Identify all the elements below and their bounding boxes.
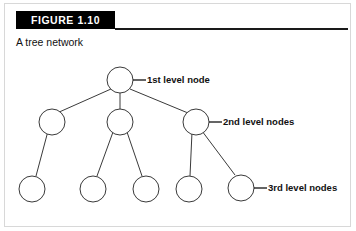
tree-network-diagram: 1st level node 2nd level nodes 3rd level… — [0, 0, 356, 231]
tree-nodes-level2 — [39, 109, 209, 135]
annotation-level-1: 1st level node — [133, 74, 210, 85]
annotation-level-3: 3rd level nodes — [254, 182, 337, 193]
node-root — [107, 67, 133, 93]
edge-n2c-to-n3d — [190, 132, 192, 176]
edge-n2a-to-n3a — [36, 131, 48, 176]
node-level3-3 — [133, 176, 159, 202]
annotation-label-level3: 3rd level nodes — [268, 182, 337, 193]
edge-root-to-n2a — [57, 89, 111, 113]
node-level2-middle — [107, 109, 133, 135]
edge-root-to-n2c — [130, 89, 188, 113]
node-level3-5 — [228, 175, 254, 201]
tree-edges-level2-to-level3 — [36, 131, 235, 176]
edge-n2b-to-n3b — [97, 132, 113, 176]
annotation-level-2: 2nd level nodes — [209, 116, 294, 127]
node-level3-2 — [80, 176, 106, 202]
annotation-label-level2: 2nd level nodes — [223, 116, 294, 127]
node-level3-4 — [176, 176, 202, 202]
tree-node-level1 — [107, 67, 133, 93]
figure-page: FIGURE 1.10 A tree network — [0, 0, 356, 231]
edge-n2b-to-n3c — [127, 132, 142, 176]
node-level2-left — [39, 109, 65, 135]
tree-nodes-level3 — [19, 175, 254, 202]
annotation-label-level1: 1st level node — [147, 74, 210, 85]
node-level2-right — [183, 109, 209, 135]
node-level3-1 — [19, 176, 45, 202]
edge-n2c-to-n3e — [202, 131, 235, 175]
